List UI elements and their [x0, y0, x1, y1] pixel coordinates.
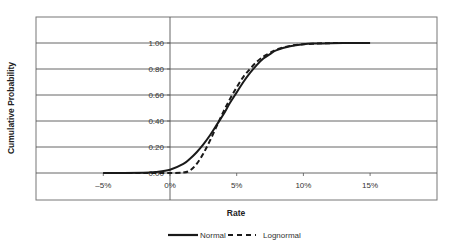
x-tick-label: 0%: [164, 181, 176, 190]
y-tick-label: 1.00: [148, 39, 164, 48]
y-tick-label: 0.60: [148, 91, 164, 100]
cdf-chart: 0.000.200.400.600.801.00 –5%0%5%10%15% R…: [0, 0, 453, 249]
legend: Normal Lognormal: [168, 231, 301, 240]
y-tick-label: 0.80: [148, 65, 164, 74]
y-axis-title: Cumulative Probability: [6, 62, 16, 154]
x-tick-label: 10%: [295, 181, 311, 190]
x-axis-title: Rate: [227, 208, 246, 218]
x-tick-label: 5%: [231, 181, 243, 190]
x-tick-label: –5%: [95, 181, 111, 190]
x-tick-label: 15%: [362, 181, 378, 190]
y-tick-label: 0.40: [148, 117, 164, 126]
y-tick-label: 0.20: [148, 143, 164, 152]
legend-label-normal: Normal: [200, 231, 226, 240]
legend-label-lognormal: Lognormal: [263, 231, 301, 240]
